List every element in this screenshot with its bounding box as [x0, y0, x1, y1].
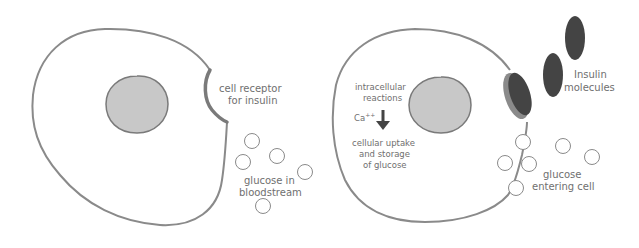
receptor-with-bound-insulin: [498, 70, 536, 122]
reactions-label-line2: reactions: [363, 93, 403, 103]
receptor-label-line1: cell receptor: [219, 83, 282, 94]
down-arrow-icon: [376, 110, 390, 130]
glucose-molecules-bloodstream: [236, 134, 313, 214]
calcium-charge: ++: [365, 111, 375, 118]
insulin-receptor: [205, 70, 227, 122]
glucose-molecule: [509, 181, 524, 196]
glucose-molecule: [256, 199, 271, 214]
calcium-symbol: Ca: [354, 113, 365, 123]
glucose-molecule: [245, 134, 260, 149]
glucose-entering-label-line1: glucose: [543, 169, 581, 180]
glucose-bloodstream-label-line2: bloodstream: [239, 187, 302, 198]
glucose-molecule: [498, 156, 513, 171]
uptake-label-line3: of glucose: [363, 160, 407, 170]
glucose-molecule: [585, 150, 600, 165]
insulin-molecule: [543, 53, 563, 97]
left-nucleus: [106, 76, 168, 133]
uptake-label-line2: and storage: [359, 149, 410, 159]
insulin-molecule: [565, 16, 585, 60]
receptor-label-line2: for insulin: [228, 95, 278, 106]
calcium-label: Ca++: [354, 111, 375, 123]
insulin-label-line1: Insulin: [574, 69, 607, 80]
glucose-molecule: [270, 149, 285, 164]
right-nucleus: [409, 77, 471, 133]
insulin-label-line2: molecules: [564, 82, 615, 93]
glucose-molecule: [522, 157, 537, 172]
glucose-entering-label-line2: entering cell: [532, 181, 595, 192]
insulin-diagram: cell receptor for insulin glucose in blo…: [0, 0, 639, 248]
left-panel: cell receptor for insulin glucose in blo…: [32, 29, 312, 225]
right-panel: intracellular reactions Ca++ cellular up…: [333, 16, 615, 222]
glucose-molecule: [556, 139, 571, 154]
glucose-molecule: [236, 155, 251, 170]
glucose-molecule: [516, 135, 531, 150]
uptake-label-line1: cellular uptake: [352, 138, 415, 148]
glucose-molecule: [298, 165, 313, 180]
glucose-bloodstream-label-line1: glucose in: [244, 175, 295, 186]
reactions-label-line1: intracellular: [355, 82, 406, 92]
